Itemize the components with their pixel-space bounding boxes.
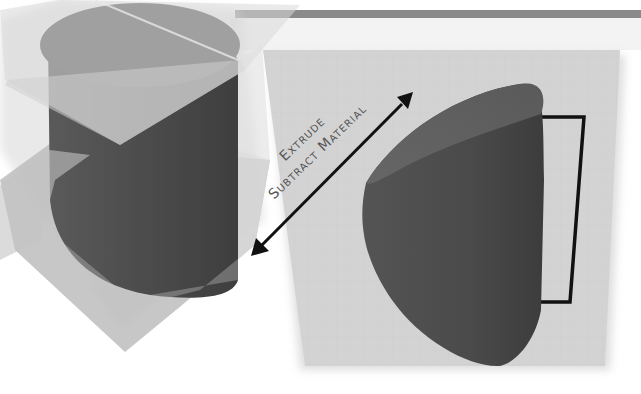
top-bar [230, 10, 641, 50]
left-figure [0, 0, 300, 352]
diagram-canvas: Extrude Subtract Material [0, 0, 641, 394]
right-figure [263, 50, 625, 370]
